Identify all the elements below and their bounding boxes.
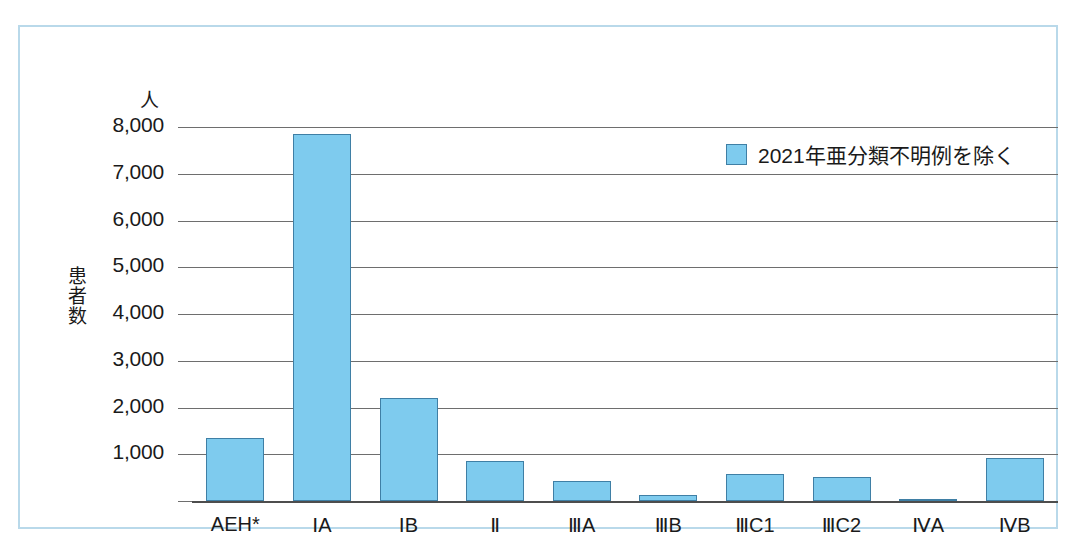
chart-frame: 人 患 者 数 2021年亜分類不明例を除く 1,0002,0003,0004,… bbox=[18, 25, 1058, 529]
x-axis-tick-label: ⅢA bbox=[538, 513, 625, 537]
x-axis-line bbox=[192, 501, 1058, 503]
x-axis-tick-label: Ⅱ bbox=[452, 513, 539, 537]
y-axis-tick-label: 2,000 bbox=[68, 394, 164, 418]
y-axis-tick bbox=[178, 174, 192, 175]
y-axis-tick bbox=[178, 267, 192, 268]
y-axis-tick bbox=[178, 454, 192, 455]
bar bbox=[380, 398, 438, 501]
plot-area: 1,0002,0003,0004,0005,0006,0007,0008,000… bbox=[192, 127, 1058, 501]
x-axis-tick-label: ⅢC1 bbox=[712, 513, 799, 537]
x-axis-tick-label: ⅢB bbox=[625, 513, 712, 537]
y-axis-tick bbox=[178, 221, 192, 222]
bar bbox=[986, 458, 1044, 501]
y-axis-tick bbox=[178, 361, 192, 362]
x-axis-tick-label: ⅠB bbox=[365, 513, 452, 537]
y-axis-tick-label: 3,000 bbox=[68, 347, 164, 371]
y-axis-tick bbox=[178, 127, 192, 128]
y-axis-tick-label: 8,000 bbox=[68, 113, 164, 137]
x-axis-tick-label: AEH* bbox=[192, 513, 279, 536]
y-axis-tick bbox=[178, 408, 192, 409]
y-axis-tick-label: 4,000 bbox=[68, 300, 164, 324]
x-axis-tick-label: ⅣA bbox=[885, 513, 972, 537]
y-axis-tick-label: 5,000 bbox=[68, 253, 164, 277]
x-axis-tick-label: ⅠA bbox=[279, 513, 366, 537]
bar bbox=[726, 474, 784, 501]
x-axis-tick-label: ⅢC2 bbox=[798, 513, 885, 537]
bar bbox=[466, 461, 524, 501]
bar bbox=[206, 438, 264, 501]
x-axis-tick-label: ⅣB bbox=[971, 513, 1058, 537]
bar bbox=[293, 134, 351, 501]
y-axis-tick-label: 1,000 bbox=[68, 440, 164, 464]
y-axis-tick bbox=[178, 314, 192, 315]
y-axis-tick-label: 6,000 bbox=[68, 207, 164, 231]
y-axis-tick-zero bbox=[178, 501, 192, 502]
bar bbox=[553, 481, 611, 501]
y-axis-tick-label: 7,000 bbox=[68, 160, 164, 184]
y-axis-unit-label: 人 bbox=[140, 85, 159, 112]
bar bbox=[813, 477, 871, 501]
gridline bbox=[192, 127, 1058, 128]
